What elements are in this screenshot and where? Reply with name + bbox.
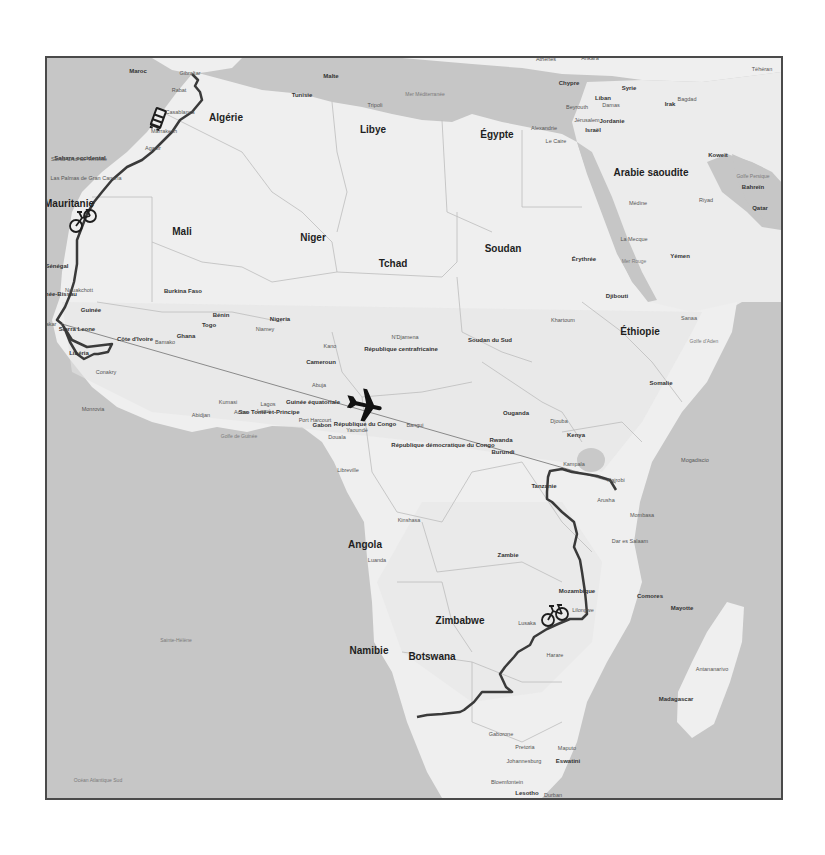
city-label: Santa Cruz de Tenerife [51,156,107,162]
country-label: Liban [595,95,611,102]
city-label: Lusaka [518,620,536,626]
city-label: Kampala [563,461,585,467]
country-label: Comores [637,593,663,600]
country-label: Burkina Faso [164,288,202,295]
city-label: Bagdad [678,96,697,102]
country-label: Lesotho [515,790,538,797]
country-label: Koweït [708,152,728,159]
city-label: Mombasa [630,512,654,518]
city-label: Kumasi [219,399,237,405]
city-label: Bloemfontein [491,779,523,785]
city-label: Niamey [256,326,275,332]
country-label: Namibie [350,645,389,656]
country-label: Angola [348,539,382,550]
airplane-icon[interactable] [344,385,384,423]
city-label: Pretoria [515,744,534,750]
city-label: Luanda [368,557,386,563]
country-label: Eswatini [556,758,580,765]
country-label: Algérie [209,112,243,123]
country-label: Chypre [559,80,580,87]
country-label: Zambie [497,552,518,559]
city-label: Nairobi [607,477,624,483]
sea-label: Mer Rouge [622,259,647,265]
country-label: Israël [585,127,601,134]
city-label: Port Harcourt [299,417,332,423]
city-label: La Mecque [620,236,647,242]
city-label: Lilongwe [572,607,594,613]
country-label: Nigeria [270,316,290,323]
country-label: Tanzanie [531,483,556,490]
country-label: Madagascar [659,696,694,703]
city-label: Maputo [558,745,576,751]
country-label: Tunisie [292,92,313,99]
city-label: Téhéran [752,66,773,72]
country-label: Libye [360,124,386,135]
city-label: Ankara [581,56,598,61]
city-label: Accra [234,409,248,415]
bicycle-icon[interactable] [541,603,569,627]
country-label: Bahreïn [742,184,764,191]
country-label: Malte [323,73,338,80]
city-label: Harare [547,652,564,658]
city-label: Monrovia [82,406,105,412]
country-label: Maroc [129,68,147,75]
country-label: Ouganda [503,410,529,417]
city-label: Johannesburg [507,758,542,764]
city-label: Riyad [699,197,713,203]
sea-label: Golfe d'Aden [690,339,719,345]
country-label: Burundi [492,449,515,456]
country-label: Somalie [649,380,672,387]
city-label: Las Palmas de Gran Canaria [51,175,122,181]
city-label: Gibraltar [179,70,200,76]
country-label: Togo [202,322,216,329]
country-label: Érythrée [572,256,596,263]
city-label: Lagos [261,401,276,407]
city-label: Tripoli [368,102,383,108]
city-label: Abuja [312,382,326,388]
city-label: Casablanca [165,109,194,115]
city-label: Bamako [155,339,175,345]
country-label: Niger [300,232,326,243]
city-label: Agadir [145,145,161,151]
city-label: Gaborone [489,731,513,737]
bicycle-icon[interactable] [69,208,97,234]
country-label: Botswana [408,651,455,662]
city-label: Dakar [45,321,56,327]
city-label: Arusha [597,497,614,503]
city-label: Kano [324,343,337,349]
country-label: Soudan du Sud [468,337,512,344]
country-label: Mali [172,226,191,237]
city-label: Beyrouth [566,104,588,110]
city-label: Bangui [406,422,423,428]
sea-label: Sainte-Hélène [160,638,192,644]
country-label: Irak [665,101,676,108]
city-label: N'Djamena [391,334,418,340]
city-label: Rabat [172,87,187,93]
country-label: République centrafricaine [364,346,438,353]
country-label: Bénin [213,312,230,319]
country-label: Soudan [485,243,522,254]
city-label: Khartoum [551,317,575,323]
map-frame[interactable]: AlgérieLibyeÉgypteArabie saouditeMaurita… [45,56,783,800]
city-label: Kinshasa [398,517,421,523]
city-label: Dar es Salaam [612,538,648,544]
sea-label: Golfe Persique [736,174,769,180]
city-label: Djouba [550,418,567,424]
city-label: Yaoundé [346,427,368,433]
country-label: Ghana [177,333,196,340]
country-label: Mozambique [559,588,595,595]
country-label: Sénégal [45,263,68,270]
country-label: Cameroun [306,359,336,366]
city-label: Athènes [536,56,556,62]
country-label: République démocratique du Congo [391,442,494,449]
city-label: Abidjan [192,412,210,418]
city-label: Douala [328,434,345,440]
country-label: Guinée [81,307,101,314]
country-label: Mayotte [671,605,694,612]
country-label: Zimbabwe [436,615,485,626]
country-label: Éthiopie [620,326,659,337]
country-label: Égypte [480,129,513,140]
sea-label: Golfe de Guinée [221,434,257,440]
city-label: Médine [629,200,647,206]
city-label: Jérusalem [574,117,599,123]
